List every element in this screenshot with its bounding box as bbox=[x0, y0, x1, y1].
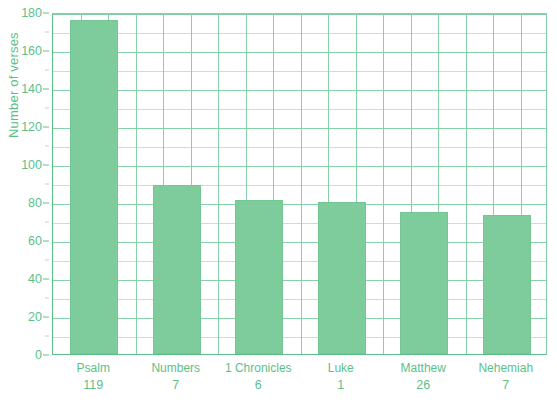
x-tick-book-0: Psalm bbox=[77, 361, 110, 375]
bar-1-chronicles-6 bbox=[235, 200, 283, 354]
y-tick-mark-20 bbox=[43, 317, 49, 318]
y-tick-minor-10 bbox=[45, 336, 49, 337]
y-tick-label-40: 40 bbox=[28, 272, 42, 286]
y-tick-mark-120 bbox=[43, 127, 49, 128]
y-tick-minor-30 bbox=[45, 298, 49, 299]
y-tick-mark-60 bbox=[43, 241, 49, 242]
y-tick-mark-40 bbox=[43, 279, 49, 280]
y-tick-minor-70 bbox=[45, 222, 49, 223]
y-tick-mark-140 bbox=[43, 89, 49, 90]
y-tick-label-160: 160 bbox=[21, 44, 42, 58]
y-tick-minor-150 bbox=[45, 70, 49, 71]
y-tick-minor-170 bbox=[45, 32, 49, 33]
y-tick-mark-180 bbox=[43, 13, 49, 14]
x-tick-book-1: Numbers bbox=[151, 361, 200, 375]
y-tick-label-180: 180 bbox=[21, 6, 42, 20]
x-tick-chapter-2: 6 bbox=[217, 377, 300, 394]
y-axis-ticks: 020406080100120140160180 bbox=[0, 0, 52, 404]
x-tick-label-2: 1 Chronicles6 bbox=[217, 360, 300, 394]
y-tick-label-20: 20 bbox=[28, 310, 42, 324]
plot-area bbox=[52, 13, 547, 355]
x-tick-chapter-0: 119 bbox=[52, 377, 135, 394]
x-tick-chapter-3: 1 bbox=[300, 377, 383, 394]
y-tick-minor-110 bbox=[45, 146, 49, 147]
x-tick-book-3: Luke bbox=[328, 361, 354, 375]
bar-nehemiah-7 bbox=[483, 215, 531, 354]
x-tick-label-1: Numbers7 bbox=[135, 360, 218, 394]
x-tick-chapter-4: 26 bbox=[382, 377, 465, 394]
x-tick-book-2: 1 Chronicles bbox=[225, 361, 292, 375]
x-tick-chapter-5: 7 bbox=[465, 377, 548, 394]
x-tick-label-3: Luke1 bbox=[300, 360, 383, 394]
x-tick-book-5: Nehemiah bbox=[478, 361, 533, 375]
bar-luke-1 bbox=[318, 202, 366, 354]
x-tick-label-4: Matthew26 bbox=[382, 360, 465, 394]
x-tick-chapter-1: 7 bbox=[135, 377, 218, 394]
bar-chart: Number of verses 02040608010012014016018… bbox=[0, 0, 557, 404]
y-tick-label-120: 120 bbox=[21, 120, 42, 134]
x-tick-label-0: Psalm119 bbox=[52, 360, 135, 394]
y-tick-minor-50 bbox=[45, 260, 49, 261]
y-tick-label-0: 0 bbox=[35, 348, 42, 362]
y-tick-label-140: 140 bbox=[21, 82, 42, 96]
bars bbox=[53, 14, 546, 354]
bar-matthew-26 bbox=[400, 212, 448, 355]
y-tick-mark-0 bbox=[43, 355, 49, 356]
y-tick-label-80: 80 bbox=[28, 196, 42, 210]
x-tick-book-4: Matthew bbox=[401, 361, 446, 375]
chart-title bbox=[0, 0, 557, 2]
y-tick-label-100: 100 bbox=[21, 158, 42, 172]
y-tick-mark-80 bbox=[43, 203, 49, 204]
y-tick-mark-160 bbox=[43, 51, 49, 52]
bar-numbers-7 bbox=[153, 185, 201, 354]
y-tick-minor-130 bbox=[45, 108, 49, 109]
y-tick-mark-100 bbox=[43, 165, 49, 166]
y-tick-minor-90 bbox=[45, 184, 49, 185]
x-axis-ticks: Psalm119Numbers71 Chronicles6Luke1Matthe… bbox=[52, 360, 547, 404]
bar-psalm-119 bbox=[70, 20, 118, 354]
y-tick-label-60: 60 bbox=[28, 234, 42, 248]
x-tick-label-5: Nehemiah7 bbox=[465, 360, 548, 394]
